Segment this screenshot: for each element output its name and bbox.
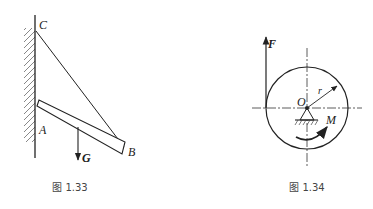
moment-m-arrow bbox=[296, 127, 327, 140]
label-b: B bbox=[128, 145, 136, 159]
figure-1-33: C A B G 图 1.33 bbox=[24, 15, 136, 193]
radius-arrow bbox=[307, 86, 337, 108]
label-o: O bbox=[297, 95, 306, 109]
label-a: A bbox=[38, 123, 47, 137]
label-g: G bbox=[82, 151, 91, 165]
caption-1-33: 图 1.33 bbox=[52, 182, 87, 193]
diagram-canvas: C A B G 图 1.33 F O r M 图 1.34 bbox=[0, 0, 373, 209]
figure-1-34: F O r M 图 1.34 bbox=[252, 37, 362, 193]
label-f: F bbox=[267, 37, 276, 51]
caption-1-34: 图 1.34 bbox=[289, 182, 324, 193]
wall-hatching bbox=[24, 28, 35, 142]
label-m: M bbox=[325, 113, 337, 127]
label-r: r bbox=[318, 85, 322, 96]
rod-ab bbox=[37, 100, 125, 154]
label-c: C bbox=[39, 18, 48, 32]
